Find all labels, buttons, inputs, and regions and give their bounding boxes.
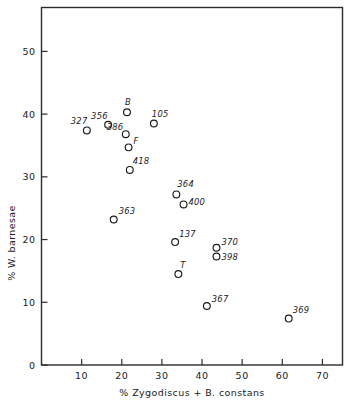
- y-tick-label: 20: [22, 234, 35, 245]
- x-tick-label: 30: [155, 370, 168, 381]
- data-point-label: 400: [189, 197, 206, 207]
- x-axis-title: % Zygodiscus + B. constans: [119, 387, 264, 398]
- y-tick-label: 40: [22, 109, 35, 120]
- y-axis-title: % W. barnesae: [6, 205, 17, 281]
- data-point-label: 398: [221, 252, 238, 262]
- x-tick-label: 20: [115, 370, 128, 381]
- scatter-plot-figure: 10203040506070 01020304050 327356B386F41…: [0, 0, 352, 405]
- data-point-label: 370: [221, 237, 238, 247]
- data-point-label: 367: [212, 294, 229, 304]
- x-tick-label: 40: [195, 370, 208, 381]
- data-point-label: 356: [91, 111, 108, 121]
- data-point-label: 386: [107, 122, 124, 132]
- data-point-label: B: [125, 97, 131, 107]
- data-point-label: T: [180, 260, 186, 270]
- data-point-label: 327: [71, 116, 88, 126]
- x-tick-label: 60: [276, 370, 289, 381]
- data-point-label: 105: [152, 109, 169, 119]
- y-tick-label: 50: [22, 46, 35, 57]
- y-tick-label: 0: [29, 360, 36, 371]
- plot-canvas: 10203040506070 01020304050 327356B386F41…: [0, 0, 352, 405]
- data-point-label: 364: [177, 179, 194, 189]
- y-tick-label: 10: [22, 297, 35, 308]
- y-tick-label: 30: [22, 171, 35, 182]
- x-tick-label: 70: [316, 370, 329, 381]
- x-tick-label: 50: [236, 370, 249, 381]
- data-point-label: F: [134, 136, 139, 146]
- data-point-label: 137: [179, 229, 196, 239]
- data-point-label: 418: [133, 156, 150, 166]
- data-point-label: 369: [293, 305, 310, 315]
- figure-background: [0, 0, 352, 405]
- data-point-label: 363: [119, 206, 136, 216]
- x-tick-label: 10: [75, 370, 88, 381]
